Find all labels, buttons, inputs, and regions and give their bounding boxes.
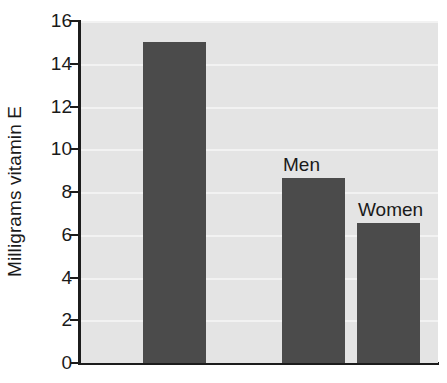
gridline xyxy=(81,64,438,66)
bar-label: Women xyxy=(358,200,423,219)
bar-chart: Milligrams vitamin E 0246810121416 MenWo… xyxy=(0,0,447,383)
gridline xyxy=(81,149,438,151)
bar xyxy=(282,178,345,363)
y-tick-label: 16 xyxy=(51,10,72,32)
y-axis-title: Milligrams vitamin E xyxy=(0,0,30,383)
y-tick-label: 12 xyxy=(51,96,72,118)
y-tick-label: 14 xyxy=(51,53,72,75)
y-tick-label: 10 xyxy=(51,138,72,160)
gridline xyxy=(81,107,438,109)
bar xyxy=(357,223,420,363)
bar-label: Men xyxy=(283,155,320,174)
y-axis-tick-labels: 0246810121416 xyxy=(34,21,72,363)
gridline xyxy=(81,192,438,194)
bar xyxy=(143,42,206,363)
plot-area: MenWomen xyxy=(81,21,438,363)
gridline xyxy=(81,21,438,23)
